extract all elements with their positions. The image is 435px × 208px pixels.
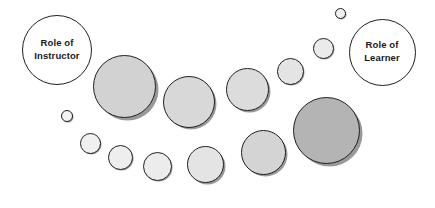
learner-series-circle <box>61 110 73 122</box>
instructor-series-circle <box>93 55 156 118</box>
learner-series-circle <box>187 146 224 183</box>
role-continuum-diagram: Role ofInstructorRole ofLearner <box>0 0 435 208</box>
instructor-series-circle <box>277 58 304 85</box>
instructor-series-circle <box>335 8 346 19</box>
learner-series-circle <box>80 133 101 154</box>
learner-circle <box>349 19 416 86</box>
instructor-series-circle <box>313 38 334 59</box>
instructor-series-circle <box>226 68 269 111</box>
instructor-series-circle <box>163 76 215 128</box>
instructor-circle <box>22 15 92 85</box>
learner-series-circle <box>293 97 360 164</box>
learner-series-circle <box>241 130 286 175</box>
learner-series-circle <box>108 145 133 170</box>
learner-series-circle <box>143 152 172 181</box>
